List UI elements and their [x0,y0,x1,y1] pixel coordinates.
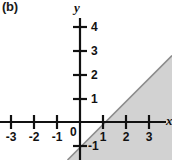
x-axis-label: x [166,113,172,129]
origin-label: 0 [70,126,77,138]
x-tick-label--1: -1 [52,131,63,143]
y-tick-label-3: 3 [91,45,98,57]
figure-panel: (b) y x -3 -2 -1 0 [0,0,172,160]
y-axis-label: y [74,0,80,16]
y-tick-label-1: 1 [91,93,98,105]
x-tick-label-1: 1 [100,131,107,143]
y-tick-label-4: 4 [91,21,98,33]
y-tick-label-2: 2 [91,69,98,81]
x-tick-label-2: 2 [123,131,130,143]
y-tick-label--1: -1 [88,140,99,152]
x-tick-label--2: -2 [29,131,40,143]
x-tick-label--3: -3 [6,131,17,143]
x-tick-label-3: 3 [146,131,153,143]
